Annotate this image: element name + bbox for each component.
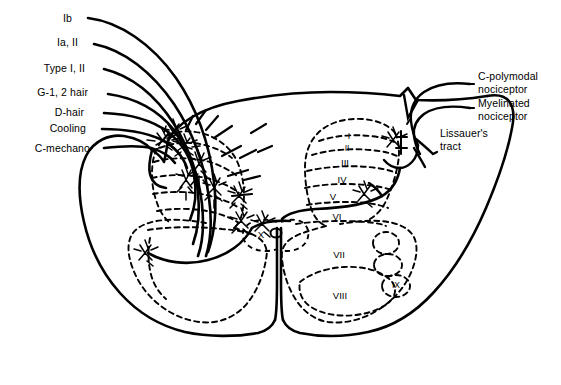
lamina-label-1: I <box>348 131 350 141</box>
lamina-label-5: V <box>330 191 336 202</box>
lamina-label-4: IV <box>338 174 347 185</box>
label-lissauers-line2: tract <box>440 140 488 153</box>
label-g12-hair: G-1, 2 hair <box>37 86 88 99</box>
label-type-i-ii: Type I, II <box>44 62 85 75</box>
lamina-label-7: VII <box>333 249 345 260</box>
label-myelinated-line2: nociceptor <box>478 110 530 123</box>
label-c-polymodal-line2: nociceptor <box>478 83 538 96</box>
label-cooling: Cooling <box>50 122 86 135</box>
label-ib: Ib <box>63 12 72 25</box>
label-c-mechano: C-mechano <box>35 142 90 155</box>
lamina-label-3: III <box>341 157 349 168</box>
label-c-polymodal-line1: C-polymodal <box>478 70 538 83</box>
label-c-polymodal-nociceptor: C-polymodal nociceptor <box>478 70 538 96</box>
label-d-hair: D-hair <box>55 106 84 119</box>
diagram-background <box>0 0 561 385</box>
spinal-cord-diagram-page: Ib Ia, II Type I, II G-1, 2 hair D-hair … <box>0 0 561 385</box>
lamina-label-6: VI <box>333 211 342 222</box>
lamina-label-2: II <box>345 143 350 153</box>
label-myelinated-line1: Myelinated <box>478 97 530 110</box>
label-lissauers-line1: Lissauer's <box>440 127 488 140</box>
label-myelinated-nociceptor: Myelinated nociceptor <box>478 97 530 123</box>
lamina-label-8: VIII <box>333 290 347 301</box>
spinal-cord-cross-section-svg <box>0 0 561 385</box>
label-lissauers-tract: Lissauer's tract <box>440 127 488 153</box>
lamina-label-9: IX <box>392 280 400 290</box>
lamina-label-10: X <box>258 229 264 240</box>
label-ia-ii: Ia, II <box>57 36 78 49</box>
